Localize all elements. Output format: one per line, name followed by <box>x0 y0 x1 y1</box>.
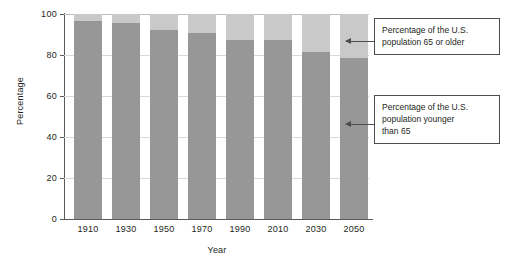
y-tick-mark-0 <box>60 219 64 220</box>
bar-segment-younger-2030 <box>302 52 330 219</box>
bar-2050 <box>340 14 368 219</box>
bar-1970 <box>188 14 216 219</box>
bar-1910 <box>74 14 102 219</box>
bar-segment-younger-1990 <box>226 40 254 219</box>
callout-arrow-older <box>346 41 374 42</box>
bar-segment-older-1910 <box>74 14 102 21</box>
y-tick-label-20: 20 <box>46 173 57 183</box>
gridline-0: 0 <box>64 219 369 220</box>
y-tick-mark-60 <box>60 96 64 97</box>
x-tick-label-1970: 1970 <box>182 224 222 234</box>
callout-younger-line-2: population younger <box>382 113 492 125</box>
bar-segment-younger-2050 <box>340 58 368 219</box>
plot-area: 100 80 60 40 20 0 <box>64 14 369 219</box>
bar-2010 <box>264 14 292 219</box>
callout-younger-line-3: than 65 <box>382 125 492 137</box>
x-tick-label-2050: 2050 <box>334 224 374 234</box>
x-tick-label-1930: 1930 <box>106 224 146 234</box>
stacked-bar-chart: Percentage 100 80 60 40 20 0 <box>0 0 510 267</box>
bar-1950 <box>150 14 178 219</box>
callout-older-line-1: Percentage of the U.S. <box>382 24 492 36</box>
bar-segment-older-1990 <box>226 14 254 40</box>
x-tick-label-2010: 2010 <box>258 224 298 234</box>
bar-1930 <box>112 14 140 219</box>
y-axis-title: Percentage <box>15 61 25 141</box>
bar-segment-older-1950 <box>150 14 178 30</box>
y-tick-label-100: 100 <box>41 9 57 19</box>
bar-segment-older-1970 <box>188 14 216 33</box>
y-tick-mark-100 <box>60 14 64 15</box>
y-tick-mark-20 <box>60 178 64 179</box>
bar-segment-older-2010 <box>264 14 292 40</box>
x-tick-label-1950: 1950 <box>144 224 184 234</box>
y-tick-mark-40 <box>60 137 64 138</box>
y-tick-label-40: 40 <box>46 132 57 142</box>
callout-arrow-younger <box>346 124 374 125</box>
callout-box-younger: Percentage of the U.S. population younge… <box>374 95 500 144</box>
bar-segment-older-2030 <box>302 14 330 52</box>
bar-segment-older-1930 <box>112 14 140 23</box>
bar-segment-younger-2010 <box>264 40 292 219</box>
x-tick-label-2030: 2030 <box>296 224 336 234</box>
y-tick-label-60: 60 <box>46 91 57 101</box>
x-axis-title: Year <box>74 245 360 255</box>
x-tick-label-1990: 1990 <box>220 224 260 234</box>
bar-segment-younger-1950 <box>150 30 178 219</box>
bar-segment-younger-1910 <box>74 21 102 219</box>
y-tick-label-0: 0 <box>52 214 57 224</box>
bar-segment-older-2050 <box>340 14 368 58</box>
bar-2030 <box>302 14 330 219</box>
callout-younger-line-1: Percentage of the U.S. <box>382 101 492 113</box>
callout-box-older: Percentage of the U.S. population 65 or … <box>374 18 500 55</box>
bar-1990 <box>226 14 254 219</box>
callout-older-line-2: population 65 or older <box>382 36 492 48</box>
x-tick-label-1910: 1910 <box>68 224 108 234</box>
y-tick-label-80: 80 <box>46 50 57 60</box>
bar-segment-younger-1970 <box>188 33 216 220</box>
y-tick-mark-80 <box>60 55 64 56</box>
bar-segment-younger-1930 <box>112 23 140 219</box>
